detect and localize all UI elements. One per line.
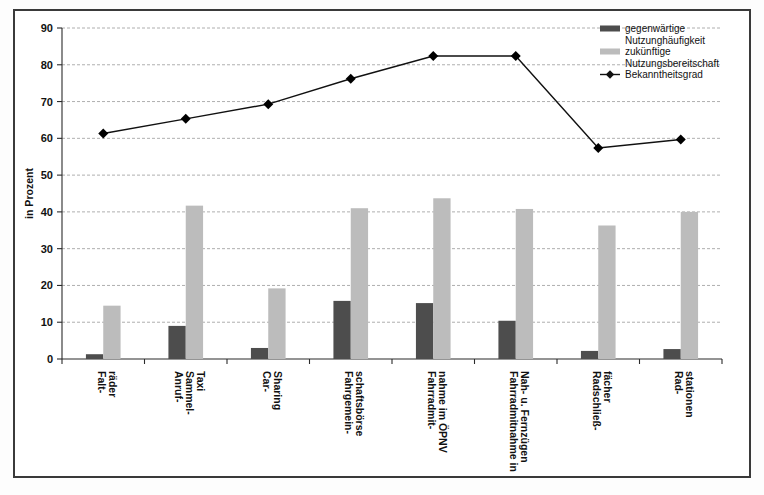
legend-dark-bar-swatch-icon [600,26,620,32]
grouped-bar-line-chart: 0102030405060708090in ProzentFalt-räderA… [0,0,764,495]
line-marker-diamond [428,51,438,61]
bar-current-usage [416,303,433,359]
line-marker-diamond [98,129,108,139]
bar-current-usage [663,349,680,359]
bar-current-usage [86,354,103,359]
chart-figure: 0102030405060708090in ProzentFalt-räderA… [0,0,764,495]
x-category-label: nahme im ÖPNV [437,371,449,453]
bar-future-willingness [268,288,285,359]
y-tick-label: 70 [41,96,53,108]
x-category-label: fächer [602,371,614,403]
x-category-label: Fahrgemein- [343,371,355,435]
y-tick-label: 20 [41,279,53,291]
bar-future-willingness [433,198,450,359]
bar-future-willingness [681,212,698,359]
line-marker-diamond [676,134,686,144]
legend-label-awareness: Bekanntheitsgrad [625,69,703,80]
bar-current-usage [581,351,598,359]
x-category-label: Fahrradmit- [426,371,438,430]
legend-label-future-2: Nutzungsbereitschaft [625,58,719,69]
y-axis-title: in Prozent [23,168,35,219]
x-category-label: Falt- [96,371,108,394]
line-marker-diamond [263,99,273,109]
y-tick-label: 60 [41,132,53,144]
bar-future-willingness [598,225,615,359]
bar-future-willingness [351,208,368,359]
legend-light-bar-swatch-icon [600,49,620,55]
x-category-label: schaftsbörse [354,371,366,437]
x-category-label: Taxi [195,371,207,391]
x-category-label: Nah- u. Fernzügen [519,371,531,463]
x-category-label: Sharing [272,371,284,410]
x-category-label: Car- [261,371,273,393]
legend-label-current-1: gegenwärtige [625,23,685,34]
x-category-label: Anruf- [173,371,185,403]
bar-future-willingness [186,206,203,359]
y-tick-label: 80 [41,59,53,71]
x-category-label: stationen [684,371,696,418]
y-tick-label: 30 [41,243,53,255]
bar-current-usage [251,348,268,359]
x-category-label: Fahrradmitnahme in [508,371,520,472]
bar-current-usage [498,321,515,359]
x-category-label: Sammel- [184,371,196,415]
legend-diamond-marker-icon [606,70,614,78]
bar-current-usage [168,326,185,359]
plot-area-wrapper: 0102030405060708090in ProzentFalt-räderA… [0,0,764,495]
y-tick-label: 50 [41,169,53,181]
bar-future-willingness [103,306,120,359]
bar-future-willingness [516,209,533,359]
y-tick-label: 40 [41,206,53,218]
bar-current-usage [333,301,350,359]
x-category-label: Radschließ- [591,371,603,431]
x-category-label: räder [107,371,119,397]
line-marker-diamond [181,114,191,124]
y-tick-label: 90 [41,22,53,34]
legend-label-current-2: Nutzunghäufigkeit [625,35,705,46]
line-marker-diamond [346,74,356,84]
y-tick-label: 0 [47,353,53,365]
legend-label-future-1: zukünftige [625,46,671,57]
x-category-label: Rad- [673,371,685,395]
y-tick-label: 10 [41,316,53,328]
